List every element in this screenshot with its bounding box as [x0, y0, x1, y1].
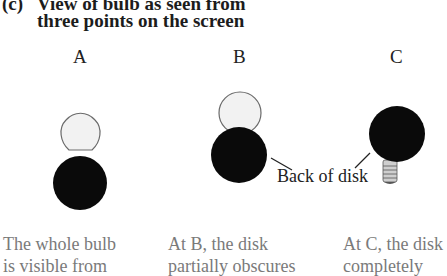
disk-b: [211, 127, 267, 183]
screw-base: [383, 160, 397, 182]
caption-a-line2: is visible from: [3, 255, 107, 276]
caption-b-line2: partially obscures: [168, 255, 295, 276]
bulb-a: [53, 113, 107, 210]
back-of-disk-annotation: Back of disk: [277, 166, 368, 187]
caption-c-line1: At C, the disk: [343, 233, 443, 255]
disk-c: [369, 106, 425, 162]
disk-a: [53, 156, 107, 210]
caption-c-line2: completely: [343, 255, 423, 276]
caption-a-line1: The whole bulb: [3, 233, 116, 255]
caption-b-line1: At B, the disk: [168, 233, 268, 255]
